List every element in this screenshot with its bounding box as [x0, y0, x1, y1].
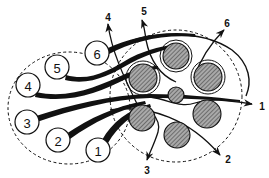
arrow-label-2: 2 [225, 154, 231, 165]
arrow-label-4: 4 [105, 12, 111, 23]
svg-text:2: 2 [54, 134, 61, 149]
cylinder-bottom [164, 122, 190, 148]
node-4: 4 [16, 73, 40, 97]
cylinder-upper-left [129, 64, 157, 92]
node-1: 1 [86, 138, 110, 162]
arrow-label-5: 5 [141, 6, 147, 17]
arrow-label-1: 1 [259, 101, 265, 112]
svg-text:4: 4 [24, 79, 31, 94]
node-2: 2 [46, 128, 70, 152]
arrow-label-6: 6 [224, 18, 230, 29]
cylinder-center [168, 87, 184, 103]
cylinder-upper-right [194, 63, 222, 91]
svg-text:1: 1 [94, 144, 101, 159]
cylinder-lower-right [193, 100, 221, 128]
svg-text:5: 5 [53, 61, 60, 76]
arrow-label-3: 3 [144, 165, 150, 176]
svg-text:6: 6 [93, 47, 100, 62]
cylinder-top [163, 43, 189, 69]
svg-text:3: 3 [23, 116, 30, 131]
node-5: 5 [45, 55, 69, 79]
node-6: 6 [85, 41, 109, 65]
cylinder-lower-left [129, 105, 155, 131]
routing-diagram: 6 5 4 3 2 1 1 2 3 4 5 6 [0, 0, 269, 178]
node-3: 3 [15, 110, 39, 134]
